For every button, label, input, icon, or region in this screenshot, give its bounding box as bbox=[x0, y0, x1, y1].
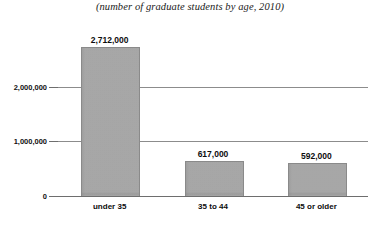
y-tick-mark-1000000 bbox=[49, 141, 58, 142]
value-label-45-or-older: 592,000 bbox=[276, 151, 356, 161]
chart-figure: (number of graduate students by age, 201… bbox=[0, 0, 380, 230]
category-label-35-to-44: 35 to 44 bbox=[168, 202, 258, 211]
value-label-35-to-44: 617,000 bbox=[173, 149, 253, 159]
bar-45-or-older[interactable] bbox=[288, 163, 347, 196]
y-tick-label-0: 0 bbox=[43, 192, 47, 201]
y-tick-label-1000000: 1,000,000 bbox=[14, 137, 47, 146]
axis-baseline bbox=[58, 196, 368, 197]
y-tick-label-2000000: 2,000,000 bbox=[14, 82, 47, 91]
y-tick-mark-0 bbox=[49, 196, 58, 197]
category-label-under-35: under 35 bbox=[65, 202, 155, 211]
value-label-under-35: 2,712,000 bbox=[70, 35, 150, 45]
category-label-45-or-older: 45 or older bbox=[271, 202, 361, 211]
bar-35-to-44[interactable] bbox=[185, 161, 244, 196]
bar-under-35[interactable] bbox=[81, 47, 140, 196]
y-axis: 2,000,000 1,000,000 0 bbox=[0, 40, 47, 196]
plot-area bbox=[58, 40, 368, 196]
chart-title: (number of graduate students by age, 201… bbox=[0, 1, 380, 12]
y-tick-mark-2000000 bbox=[49, 87, 58, 88]
